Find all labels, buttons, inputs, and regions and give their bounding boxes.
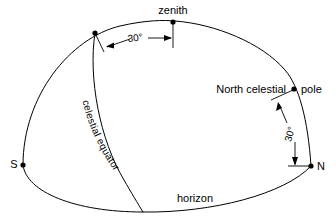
angle-right-lower-arrow — [292, 142, 298, 166]
angle-right-label: 30° — [282, 125, 297, 142]
horizon-curve — [23, 165, 311, 212]
north-celestial-label: North celestial — [216, 83, 286, 95]
diagram-canvas: 30° 30° zenith North celestial pole S N — [0, 0, 336, 223]
north-point-marker — [308, 163, 313, 168]
angle-right-upper-arrow — [276, 102, 287, 123]
south-point-marker — [20, 162, 25, 167]
equator-point-leader-line — [95, 33, 104, 52]
celestial-sphere-diagram: 30° 30° zenith North celestial pole S N — [0, 0, 336, 223]
north-celestial-pole-marker — [291, 86, 296, 91]
equator-dome-point-marker — [92, 30, 97, 35]
zenith-label: zenith — [158, 4, 187, 16]
angle-top-label: 30° — [127, 31, 143, 44]
zenith-point-marker — [170, 19, 175, 24]
celestial-equator-curve — [93, 33, 143, 212]
angle-top-left-arrow — [106, 39, 130, 49]
celestial-equator-label: celestial equator — [80, 99, 122, 173]
horizon-label: horizon — [177, 192, 213, 204]
pole-label: pole — [301, 83, 322, 95]
north-point-label: N — [317, 160, 325, 172]
south-point-label: S — [10, 158, 17, 170]
angle-top-right-arrow — [148, 35, 172, 41]
celestial-equator-label-text: celestial equator — [80, 99, 122, 173]
